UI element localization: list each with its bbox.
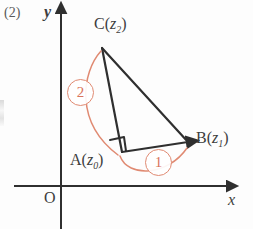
origin-label: O <box>44 190 56 206</box>
vertex-b-suffix: ) <box>223 129 228 146</box>
vertex-label-c: C(z2) <box>94 16 127 35</box>
complex-plane-triangle-figure: (2) y x O C(z2) B(z1) A(z0) 2 1 <box>0 0 253 229</box>
vertex-c-suffix: ) <box>121 15 126 32</box>
triangle-edge-ca <box>102 48 122 152</box>
problem-number-label: (2) <box>4 6 20 20</box>
y-axis-label: y <box>44 4 51 20</box>
vertex-label-a: A(z0) <box>70 152 103 171</box>
right-angle-mark <box>110 137 126 151</box>
triangle-edge-bc <box>102 48 188 142</box>
vertex-a-prefix: A( <box>70 151 87 168</box>
vertex-label-b: B(z1) <box>196 130 229 149</box>
vertex-a-suffix: ) <box>98 151 103 168</box>
vertex-c-prefix: C( <box>94 15 110 32</box>
x-axis-label: x <box>228 192 235 208</box>
step-marker-one: 1 <box>145 149 172 176</box>
step-marker-two: 2 <box>67 79 94 106</box>
vertex-b-prefix: B( <box>196 129 212 146</box>
